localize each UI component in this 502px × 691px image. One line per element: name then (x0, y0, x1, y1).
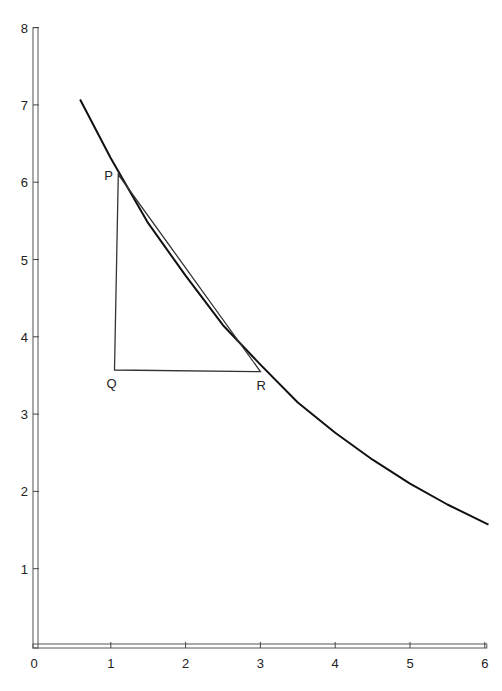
triangle-layer: PQR (104, 168, 266, 392)
vertex-label-r: R (256, 378, 265, 393)
chart-canvas: 123456780123456 PQR (0, 0, 502, 691)
x-tick-label: 4 (332, 656, 339, 671)
x-tick-label: 6 (481, 656, 488, 671)
y-axis (33, 28, 38, 648)
x-tick-label: 2 (182, 656, 189, 671)
x-tick-label: 3 (257, 656, 264, 671)
x-tick-label: 5 (406, 656, 413, 671)
y-tick-label: 6 (21, 175, 28, 190)
y-tick-label: 4 (21, 330, 28, 345)
y-tick-label: 7 (21, 98, 28, 113)
curve-layer (80, 100, 488, 525)
y-tick-label: 5 (21, 253, 28, 268)
curve-line (80, 100, 488, 525)
y-tick-label: 1 (21, 562, 28, 577)
vertex-label-p: P (104, 168, 113, 183)
x-tick-label: 1 (107, 656, 114, 671)
y-tick-label: 8 (21, 21, 28, 36)
x-tick-label: 0 (30, 656, 37, 671)
y-tick-label: 3 (21, 407, 28, 422)
axes (33, 28, 487, 648)
y-tick-label: 2 (21, 484, 28, 499)
vertex-label-q: Q (107, 376, 117, 391)
